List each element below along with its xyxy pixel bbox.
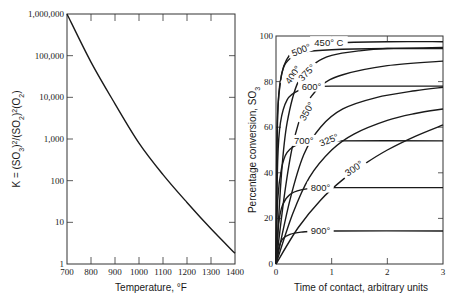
left-x-tick-label: 1300 <box>202 267 221 277</box>
curve-label-700c: 700° <box>294 135 314 146</box>
right-x-tick-label: 3 <box>441 267 446 277</box>
left-x-tick-label: 800 <box>84 267 98 277</box>
left-y-tick-label: 1,000 <box>44 134 65 144</box>
left-y-tick-label: 10,000 <box>39 92 64 102</box>
curve-label-900c: 900° <box>311 225 331 236</box>
right-y-tick-label: 100 <box>260 31 274 41</box>
series-line-900c <box>276 231 443 264</box>
left-x-tick-label: 1000 <box>130 267 149 277</box>
left-x-tick-label: 1400 <box>226 267 245 277</box>
right-y-axis-title: Percentage conversion, SO3 <box>247 87 261 213</box>
left-x-tick-label: 1200 <box>178 267 197 277</box>
left-series-group <box>67 14 235 253</box>
equilibrium-constant-chart: 70080090010001100120013001400 1101001,00… <box>11 9 245 293</box>
curve-label-group: 350° <box>295 97 318 126</box>
curve-label-group: 450° C <box>310 36 348 48</box>
curve-label-group: 600° <box>298 81 324 93</box>
right-y-tick-label: 20 <box>264 213 274 223</box>
curve-label-group: 300° <box>340 156 368 181</box>
curve-label-group: 800° <box>307 182 333 194</box>
right-y-tick-label: 60 <box>264 122 274 132</box>
left-series-line-k <box>67 14 235 253</box>
left-y-axis: 1101001,00010,000100,0001,000,000 <box>28 9 235 269</box>
left-y-tick-label: 1,000,000 <box>28 9 65 19</box>
curve-label-group: 700° <box>291 135 317 147</box>
left-x-axis: 70080090010001100120013001400 <box>60 14 244 277</box>
right-y-tick-label: 0 <box>269 259 274 269</box>
left-y-tick-label: 100 <box>51 176 65 186</box>
right-x-tick-label: 0 <box>274 267 279 277</box>
curve-label-group: 325° <box>314 129 343 150</box>
series-line-325c <box>276 109 443 264</box>
right-curve-labels: 450° C500°400°375°600°350°700°325°300°80… <box>280 36 368 236</box>
right-x-tick-label: 2 <box>385 267 390 277</box>
left-y-tick-label: 10 <box>55 217 65 227</box>
series-line-800c <box>276 188 443 264</box>
curve-label-800c: 800° <box>311 182 331 193</box>
left-x-tick-label: 900 <box>108 267 122 277</box>
right-y-tick-label: 40 <box>264 168 274 178</box>
right-y-axis: 020406080100 <box>260 31 444 269</box>
left-y-axis-title: K = (SO3)2/(SO2)2(O2) <box>11 90 25 187</box>
figure: 70080090010001100120013001400 1101001,00… <box>0 0 457 305</box>
left-x-axis-title: Temperature, °F <box>115 282 187 293</box>
left-x-tick-label: 1100 <box>154 267 172 277</box>
curve-label-600c: 600° <box>302 81 322 92</box>
right-x-axis-title: Time of contact, arbitrary units <box>294 282 428 293</box>
curve-label-500c: 500° <box>290 41 313 59</box>
right-y-tick-label: 80 <box>264 77 274 87</box>
curve-label-450c: 450° C <box>314 37 343 48</box>
left-y-tick-label: 1 <box>60 259 65 269</box>
conversion-chart: 0123 020406080100 450° C500°400°375°600°… <box>247 31 446 293</box>
right-x-tick-label: 1 <box>329 267 334 277</box>
curve-label-group: 900° <box>307 225 333 237</box>
left-y-tick-label: 100,000 <box>35 51 65 61</box>
curve-label-group: 500° <box>287 39 316 60</box>
